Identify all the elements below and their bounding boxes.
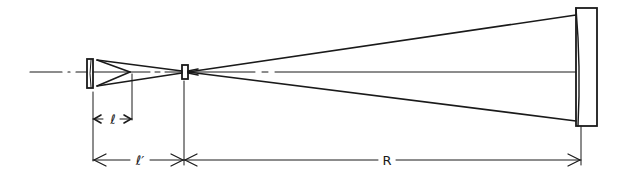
- diverging-rays: [188, 15, 576, 121]
- optical-diagram: ℓ ℓ′ R: [0, 0, 629, 176]
- small-convex-mirror: [87, 59, 93, 88]
- label-l: ℓ: [109, 112, 115, 127]
- focal-point-element: [182, 65, 188, 79]
- label-l-prime: ℓ′: [135, 153, 144, 168]
- large-concave-mirror: [576, 8, 597, 126]
- label-R: R: [382, 153, 391, 168]
- extension-lines: [93, 74, 581, 165]
